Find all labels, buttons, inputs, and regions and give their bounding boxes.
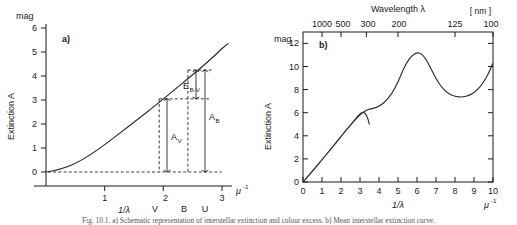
annotation-av-sub: V — [178, 137, 183, 144]
annotation-ab-base: A — [209, 112, 215, 122]
panel-b-x-tick-0: 0 — [300, 186, 305, 196]
panel-b-x-unit-exp: -1 — [491, 197, 497, 204]
panel-b-x-tick-10: 10 — [488, 186, 498, 196]
x-tick-1: 1 — [102, 193, 107, 203]
annotation-ebv-sub: B-V — [190, 86, 201, 93]
panel-b-x-tick-1: 1 — [319, 186, 324, 196]
wavelength-tick-500: 500 — [335, 19, 350, 29]
panel-b-letter: b) — [319, 40, 328, 50]
y-tick-0: 0 — [32, 167, 37, 177]
panel-b-y-ticks — [303, 43, 493, 182]
panel-a-y-unit: mag — [16, 11, 34, 21]
y-tick-6: 6 — [32, 23, 37, 33]
panel-a-y-tick-labels: 0 1 2 3 4 5 6 — [32, 23, 37, 177]
band-label-v: V — [152, 204, 158, 214]
y-tick-5: 5 — [32, 47, 37, 57]
annotation-ab-sub: B — [216, 117, 220, 124]
panel-b-extinction-curve — [303, 53, 493, 182]
panel-a-axes — [34, 24, 232, 191]
wavelength-tick-125: 125 — [447, 19, 462, 29]
y-tick-2: 2 — [32, 119, 37, 129]
panel-a-band-labels: V B U — [152, 204, 208, 214]
panel-b-x-tick-3: 3 — [357, 186, 362, 196]
wavelength-tick-100: 100 — [483, 19, 498, 29]
panel-a-annotation-av: A V — [164, 99, 183, 172]
panel-b-x-tick-labels: 0 1 2 3 4 5 6 7 8 9 10 — [300, 186, 498, 196]
panel-b-y-tick-10: 10 — [289, 62, 299, 72]
figure-caption: Fig. 10.1. a) Schematic representation o… — [0, 216, 517, 225]
panel-b-x-tick-5: 5 — [395, 186, 400, 196]
panel-b-y-tick-labels: 0 2 4 6 8 10 12 — [289, 38, 299, 187]
x-tick-3: 3 — [219, 193, 224, 203]
panel-b-y-unit: mag — [274, 34, 292, 44]
annotation-av-base: A — [171, 132, 177, 142]
panel-b-top-axis-label: Wavelength λ — [371, 4, 426, 14]
panel-b-top-ticks — [322, 32, 493, 37]
x-tick-2: 2 — [163, 193, 168, 203]
panel-b-x-tick-6: 6 — [414, 186, 419, 196]
wavelength-tick-300: 300 — [360, 19, 375, 29]
band-label-u: U — [202, 204, 209, 214]
wavelength-tick-1000: 1000 — [312, 19, 332, 29]
panel-b-x-unit-base: μ — [483, 200, 489, 210]
panel-a-x-unit: μ -1 — [235, 183, 249, 196]
panel-b-x-tick-2: 2 — [338, 186, 343, 196]
panel-a-annotation-ab: A B — [202, 70, 220, 172]
panel-a-extinction-curve — [46, 44, 228, 172]
panel-b-x-tick-9: 9 — [471, 186, 476, 196]
panel-b-x-unit: μ -1 — [483, 197, 497, 210]
panel-a-annotation-ebv: E B-V — [183, 70, 201, 99]
panel-a-x-axis-label: 1/λ — [118, 205, 130, 215]
panel-b-top-axis-unit: [ nm ] — [470, 6, 491, 16]
panel-b-y-axis-label: Extinction A — [263, 103, 273, 150]
panel-a: 0 1 2 3 4 5 6 mag Extinction A a) 1 2 3 — [0, 0, 258, 225]
panel-a-x-unit-exp: -1 — [243, 183, 249, 190]
annotation-ebv-base: E — [183, 81, 189, 91]
panel-b-x-axis-label: 1/λ — [392, 200, 404, 210]
panel-b-y-tick-0: 0 — [294, 177, 299, 187]
panel-b-y-tick-2: 2 — [294, 154, 299, 164]
panel-a-x-tick-labels: 1 2 3 — [102, 193, 224, 203]
panel-a-letter: a) — [62, 34, 70, 44]
panel-a-y-axis-label: Extinction A — [6, 93, 16, 140]
panel-a-x-unit-base: μ — [235, 186, 241, 196]
panel-b-y-tick-8: 8 — [294, 85, 299, 95]
panel-b-x-tick-7: 7 — [433, 186, 438, 196]
panel-b-top-tick-labels: 1000 500 300 200 125 100 — [312, 19, 499, 29]
y-tick-1: 1 — [32, 143, 37, 153]
panel-b: Wavelength λ [ nm ] 1000 500 300 200 125… — [255, 0, 517, 225]
y-tick-4: 4 — [32, 71, 37, 81]
band-label-b: B — [181, 204, 187, 214]
extinction-figure: 0 1 2 3 4 5 6 mag Extinction A a) 1 2 3 — [0, 0, 517, 225]
panel-b-x-tick-4: 4 — [376, 186, 381, 196]
y-tick-3: 3 — [32, 95, 37, 105]
panel-b-y-tick-6: 6 — [294, 108, 299, 118]
panel-b-x-tick-8: 8 — [452, 186, 457, 196]
panel-b-frame — [303, 32, 493, 182]
panel-b-y-tick-4: 4 — [294, 131, 299, 141]
panel-b-x-ticks — [303, 177, 493, 182]
wavelength-tick-200: 200 — [391, 19, 406, 29]
